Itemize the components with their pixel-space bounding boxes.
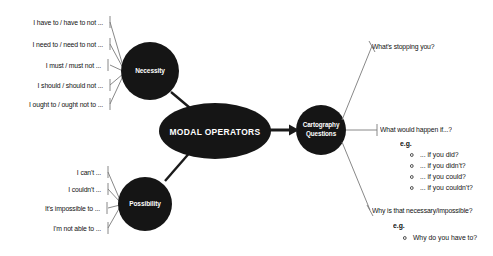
possibility-item-2: I couldn't ... (10, 185, 101, 194)
question-1-heading: What's stopping you? (372, 42, 434, 51)
modal-operators-node-label: MODAL OPERATORS (162, 126, 268, 137)
question-2-example-1: ... if you did? (410, 150, 459, 159)
possibility-item-3: It's impossible to ... (10, 204, 100, 213)
cartography-line-3 (342, 142, 370, 210)
question-3-eg-label: e.g. (393, 221, 405, 230)
necessity-item-4: I should / should not ... (10, 81, 103, 90)
question-2-example-2: ... if you didn't? (410, 161, 466, 170)
cartography-line-1 (342, 46, 372, 120)
necessity-item-3: I must / must not ... (10, 61, 101, 70)
cartography-node-label-line2: Questions (286, 130, 356, 138)
necessity-connector-lines (110, 22, 123, 104)
question-2-example-3-text: ... if you could? (420, 172, 466, 181)
bullet-ring-icon (410, 175, 414, 179)
question-2-eg-label: e.g. (400, 139, 412, 148)
necessity-line-2 (110, 44, 123, 68)
modal-operators-diagram: Necessity Possibility MODAL OPERATORS Ca… (0, 0, 493, 256)
bullet-ring-icon (410, 164, 414, 168)
cartography-line-end-ticks (367, 41, 377, 216)
necessity-line-5 (110, 76, 123, 104)
question-3-example-1: Why do you have to? (403, 233, 477, 242)
possibility-node-label: Possibility (110, 200, 180, 208)
possibility-item-4: I'm not able to ... (10, 224, 101, 233)
possibility-line-end-ticks (107, 166, 108, 234)
necessity-item-5: I ought to / ought not to ... (10, 100, 103, 109)
possibility-item-1: I can't ... (10, 168, 101, 177)
bullet-ring-icon (410, 153, 414, 157)
bullet-ring-icon (403, 236, 407, 240)
necessity-line-1 (110, 22, 123, 66)
question-2-example-1-text: ... if you did? (420, 150, 459, 159)
bullet-ring-icon (410, 186, 414, 190)
necessity-node-label: Necessity (115, 67, 185, 75)
question-2-example-2-text: ... if you didn't? (420, 161, 466, 170)
question-3-heading: Why is that necessary/impossible? (372, 206, 472, 215)
cartography-node-label-line1: Cartography (286, 121, 356, 129)
question-3-example-1-text: Why do you have to? (413, 233, 477, 242)
question-2-example-4: ... if you couldn't? (410, 183, 473, 192)
question-2-heading: What would happen if...? (380, 125, 452, 134)
necessity-item-2: I need to / need to not ... (10, 40, 103, 49)
question-2-example-4-text: ... if you couldn't? (420, 183, 473, 192)
necessity-item-1: I have to / have to not ... (10, 18, 103, 27)
question-2-example-3: ... if you could? (410, 172, 466, 181)
necessity-line-end-ticks (108, 16, 110, 110)
possibility-line-4 (108, 207, 120, 228)
